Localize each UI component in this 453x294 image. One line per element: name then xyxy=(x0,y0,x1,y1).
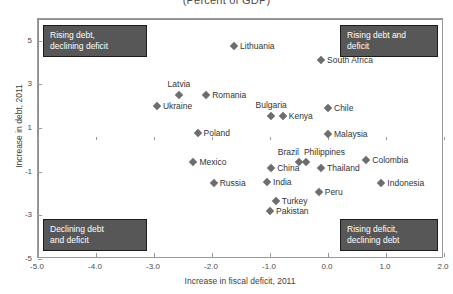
chart-title: (Percent of GDP) xyxy=(0,0,453,6)
x-tick-mark xyxy=(270,253,271,257)
data-point-label: Kenya xyxy=(289,112,313,121)
data-point-marker xyxy=(263,178,271,186)
x-tick-mark-center xyxy=(96,137,97,140)
annotation-rising-debt-declining-deficit: Rising debt, declining deficit xyxy=(43,25,147,57)
y-tick-label: 5 xyxy=(14,35,32,44)
data-point-marker xyxy=(377,178,385,186)
data-point-label: Malaysia xyxy=(334,130,368,139)
x-tick-label: -5.0 xyxy=(30,262,44,271)
data-point-marker xyxy=(314,188,322,196)
x-tick-label: -1.0 xyxy=(262,262,276,271)
x-tick-label: 1.0 xyxy=(379,262,390,271)
data-point-marker xyxy=(362,155,370,163)
data-point-marker xyxy=(317,164,325,172)
x-tick-mark xyxy=(154,253,155,257)
data-point-label: Philippines xyxy=(304,148,345,157)
data-point-marker xyxy=(317,56,325,64)
data-point-marker xyxy=(302,158,310,166)
data-point-label: Indonesia xyxy=(387,179,424,188)
x-tick-label: -4.0 xyxy=(88,262,102,271)
x-tick-mark-center xyxy=(38,137,39,140)
plot-area: Rising debt, declining deficit Rising de… xyxy=(37,18,443,258)
data-point-label: Colombia xyxy=(372,156,408,165)
data-point-label: South Africa xyxy=(327,56,373,65)
x-axis-title: Increase in fiscal deficit, 2011 xyxy=(37,276,443,286)
y-tick-label: -5 xyxy=(14,254,32,263)
x-tick-mark-center xyxy=(270,137,271,140)
x-tick-mark xyxy=(96,253,97,257)
data-point-label: Bulgaria xyxy=(256,101,287,110)
annotation-rising-deficit-declining-debt: Rising deficit, declining debt xyxy=(340,219,438,251)
y-tick-mark xyxy=(38,215,42,216)
data-point-marker xyxy=(279,112,287,120)
annotation-rising-debt-and-deficit: Rising debt and deficit xyxy=(340,25,438,57)
data-point-label: Peru xyxy=(325,188,343,197)
x-tick-label: -2.0 xyxy=(204,262,218,271)
data-point-label: Lithuania xyxy=(240,42,275,51)
x-tick-mark-center xyxy=(444,137,445,140)
data-point-label: Poland xyxy=(204,129,230,138)
data-point-label: China xyxy=(277,164,299,173)
data-point-label: Romania xyxy=(212,91,246,100)
data-point-marker xyxy=(189,158,197,166)
x-tick-mark xyxy=(386,253,387,257)
data-point-label: Brazil xyxy=(278,148,299,157)
y-tick-label: -3 xyxy=(14,210,32,219)
data-point-label: Latvia xyxy=(168,80,191,89)
x-tick-label: -3.0 xyxy=(146,262,160,271)
data-point-marker xyxy=(324,104,332,112)
data-point-marker xyxy=(202,91,210,99)
data-point-marker xyxy=(209,179,217,187)
data-point-marker xyxy=(230,41,238,49)
data-point-label: Russia xyxy=(220,179,246,188)
data-point-label: Mexico xyxy=(199,158,226,167)
y-tick-mark xyxy=(38,41,42,42)
data-point-marker xyxy=(153,102,161,110)
data-point-marker xyxy=(266,207,274,215)
data-point-label: Thailand xyxy=(327,164,360,173)
horizontal-zero-axis xyxy=(38,19,442,20)
x-tick-mark xyxy=(38,253,39,257)
x-tick-mark xyxy=(212,253,213,257)
data-point-marker xyxy=(175,91,183,99)
data-point-label: India xyxy=(273,178,291,187)
x-tick-mark-center xyxy=(386,137,387,140)
annotation-declining-debt-and-deficit: Declining debt and deficit xyxy=(43,219,147,251)
data-point-label: Turkey xyxy=(282,197,308,206)
data-point-label: Chile xyxy=(334,104,353,113)
data-point-marker xyxy=(272,197,280,205)
x-tick-label: 2.0 xyxy=(437,262,448,271)
data-point-label: Pakistan xyxy=(276,207,309,216)
data-point-marker xyxy=(193,129,201,137)
x-tick-mark-center xyxy=(154,137,155,140)
y-axis-title: Increase in debt, 2011 xyxy=(14,61,24,191)
y-tick-mark xyxy=(38,84,42,85)
x-tick-label: 0.0 xyxy=(321,262,332,271)
data-point-marker xyxy=(267,112,275,120)
y-tick-mark xyxy=(38,128,42,129)
data-point-marker xyxy=(267,164,275,172)
data-point-label: Ukraine xyxy=(163,102,192,111)
y-tick-mark xyxy=(38,259,42,260)
y-tick-mark xyxy=(38,172,42,173)
chart-figure: (Percent of GDP) Rising debt, declining … xyxy=(0,0,453,294)
x-tick-mark xyxy=(328,253,329,257)
data-point-marker xyxy=(324,129,332,137)
x-tick-mark xyxy=(444,253,445,257)
